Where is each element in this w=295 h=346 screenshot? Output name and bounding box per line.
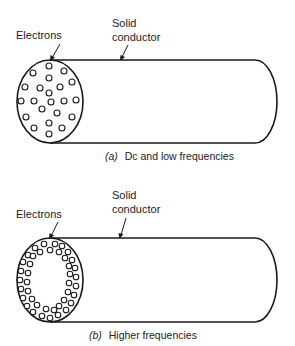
panel-a: Electrons Solid conductor (a) Dc and low…	[16, 17, 277, 162]
conductor-label-line1-b: Solid	[112, 189, 136, 201]
conductor-body-b	[50, 238, 277, 322]
skin-effect-diagram: Electrons Solid conductor (a) Dc and low…	[0, 0, 295, 346]
panel-b: Electrons Solid conductor (b) Higher fre…	[16, 189, 277, 341]
arrow-icon	[49, 218, 126, 239]
conductor-label-line2-b: conductor	[112, 203, 161, 215]
arrow-icon	[50, 44, 128, 61]
electrons-label-b: Electrons	[16, 208, 62, 220]
electrons-uniform	[18, 63, 79, 137]
caption-a: (a) Dc and low frequencies	[105, 150, 234, 162]
conductor-label-line2-a: conductor	[112, 31, 161, 43]
caption-b: (b) Higher frequencies	[89, 329, 197, 341]
electrons-label-a: Electrons	[16, 29, 62, 41]
conductor-body-a	[50, 60, 277, 143]
electrons-surface	[17, 241, 79, 321]
conductor-label-line1-a: Solid	[112, 17, 136, 29]
